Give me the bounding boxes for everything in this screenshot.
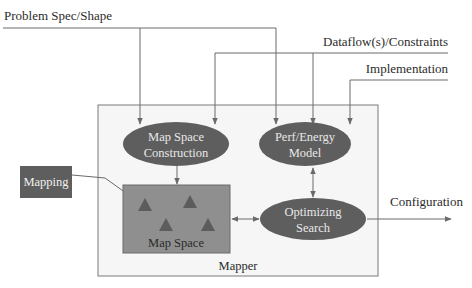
implementation-label: Implementation (366, 61, 448, 77)
mapping-label: Mapping (23, 175, 69, 189)
problem-spec-label: Problem Spec/Shape (4, 8, 112, 24)
map-space-label: Map Space (148, 236, 204, 250)
perf-energy-model-node: Perf/Energy Model (259, 122, 351, 166)
map-space-box: Map Space (123, 185, 230, 253)
optimizing-search-node: Optimizing Search (260, 198, 366, 240)
node-label: Perf/Energy (275, 130, 336, 144)
mapping-box: Mapping (20, 166, 72, 198)
node-label: Search (296, 221, 331, 235)
node-label: Construction (144, 146, 209, 160)
dataflow-constraints-label: Dataflow(s)/Constraints (323, 34, 448, 50)
node-label: Model (289, 146, 322, 160)
map-space-construction-node: Map Space Construction (123, 122, 229, 166)
mapper-label: Mapper (219, 259, 259, 273)
node-label: Map Space (148, 130, 204, 144)
node-label: Optimizing (285, 205, 343, 219)
configuration-label: Configuration (390, 194, 463, 210)
